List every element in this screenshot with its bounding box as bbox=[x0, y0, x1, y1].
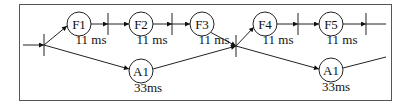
edge-a1-join bbox=[153, 46, 236, 69]
node-f1-time: 11 ms bbox=[76, 32, 107, 47]
node-f1-label: F1 bbox=[72, 17, 86, 32]
node-f5-label: F5 bbox=[324, 17, 338, 32]
edge-fork1-f1 bbox=[44, 26, 67, 45]
edge-join-f4 bbox=[236, 27, 254, 46]
node-a1-second-label: A1 bbox=[323, 63, 339, 78]
node-f2-label: F2 bbox=[134, 17, 148, 32]
flow-diagram: F1 F2 F3 F4 F5 A1 A1 11 ms 11 ms 11 ms 1… bbox=[0, 0, 407, 109]
node-a1-first-time: 33ms bbox=[134, 80, 162, 95]
node-a1-first-label: A1 bbox=[133, 64, 149, 79]
edge-join-a1b bbox=[236, 46, 319, 69]
output-line-bottom bbox=[343, 57, 386, 68]
edge-fork1-a1 bbox=[44, 45, 129, 69]
node-f4-label: F4 bbox=[258, 17, 272, 32]
node-f3-label: F3 bbox=[195, 17, 209, 32]
node-f2-time: 11 ms bbox=[137, 32, 168, 47]
node-f5-time: 11 ms bbox=[327, 32, 358, 47]
node-f3-time: 11 ms bbox=[199, 32, 230, 47]
node-a1-second-time: 33ms bbox=[322, 79, 350, 94]
node-f4-time: 11 ms bbox=[263, 32, 294, 47]
